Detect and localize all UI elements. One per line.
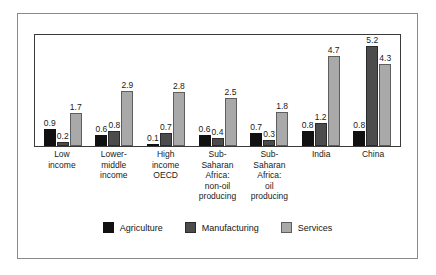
legend-swatch-services-icon [281, 222, 292, 233]
legend-label: Services [298, 223, 333, 233]
bar-groups: 0.90.21.70.60.82.90.10.72.80.60.42.50.70… [35, 35, 400, 146]
category-label-line: producing [192, 191, 244, 202]
category-label-line: Sub- [192, 149, 244, 160]
bar-group: 0.90.21.7 [37, 35, 89, 146]
bar-value-label: 0.2 [57, 132, 69, 141]
category-label-line: Lower- [88, 149, 140, 160]
bar-slot: 0.8 [302, 35, 314, 146]
bar-agriculture[interactable] [95, 135, 107, 146]
category-label-line: income [140, 160, 192, 171]
bar-services[interactable] [276, 112, 288, 146]
bar-agriculture[interactable] [44, 129, 56, 146]
bar-manufacturing[interactable] [108, 131, 120, 146]
bar-slot: 2.9 [121, 35, 133, 146]
bar-services[interactable] [173, 92, 185, 146]
bar-manufacturing[interactable] [212, 138, 224, 146]
bar-manufacturing[interactable] [315, 123, 327, 146]
legend-swatch-agriculture-icon [103, 222, 114, 233]
bar-slot: 0.1 [147, 35, 159, 146]
category-label-line: Africa: [243, 170, 295, 181]
category-label-line: Saharan [243, 160, 295, 171]
category-label: India [295, 149, 347, 202]
bar-value-label: 0.7 [250, 123, 262, 132]
bar-slot: 0.8 [353, 35, 365, 146]
category-label-line: producing [243, 191, 295, 202]
category-label-line: OECD [140, 170, 192, 181]
bar-group: 0.10.72.8 [140, 35, 192, 146]
bar-slot: 1.7 [70, 35, 82, 146]
bar-group: 0.60.42.5 [192, 35, 244, 146]
category-label: HighincomeOECD [140, 149, 192, 202]
chart-figure: 0.90.21.70.60.82.90.10.72.80.60.42.50.70… [17, 13, 418, 259]
bar-value-label: 1.2 [315, 113, 327, 122]
legend-label: Manufacturing [202, 223, 259, 233]
category-label-line: middle [88, 160, 140, 171]
plot-area: 0.90.21.70.60.82.90.10.72.80.60.42.50.70… [34, 34, 401, 147]
bar-manufacturing[interactable] [57, 142, 69, 146]
bar-slot: 1.2 [315, 35, 327, 146]
legend-label: Agriculture [120, 223, 163, 233]
bar-services[interactable] [70, 113, 82, 146]
bar-value-label: 0.8 [353, 121, 365, 130]
category-axis-labels: LowincomeLower-middleincomeHighincomeOEC… [34, 149, 401, 202]
bar-slot: 0.7 [160, 35, 172, 146]
bar-group: 0.85.24.3 [346, 35, 398, 146]
category-label-line: income [88, 170, 140, 181]
category-label-line: Africa: [192, 170, 244, 181]
bar-value-label: 0.6 [95, 125, 107, 134]
bar-value-label: 1.8 [276, 102, 288, 111]
bar-value-label: 0.3 [263, 130, 275, 139]
bar-services[interactable] [328, 56, 340, 146]
bar-slot: 4.3 [379, 35, 391, 146]
category-label: Sub-SaharanAfrica:oilproducing [243, 149, 295, 202]
bar-agriculture[interactable] [199, 135, 211, 146]
category-label-line: Saharan [192, 160, 244, 171]
category-label-line: Sub- [243, 149, 295, 160]
bar-slot: 0.7 [250, 35, 262, 146]
category-label-line: income [36, 160, 88, 171]
bar-manufacturing[interactable] [366, 46, 378, 146]
bar-value-label: 0.4 [212, 128, 224, 137]
bar-value-label: 5.2 [366, 36, 378, 45]
category-label-line: High [140, 149, 192, 160]
legend-item-services[interactable]: Services [281, 222, 333, 233]
bar-agriculture[interactable] [250, 133, 262, 146]
category-label: China [347, 149, 399, 202]
legend-item-manufacturing[interactable]: Manufacturing [185, 222, 259, 233]
category-label-line: India [295, 149, 347, 160]
bar-services[interactable] [121, 91, 133, 147]
bar-value-label: 0.8 [302, 121, 314, 130]
bar-value-label: 2.8 [173, 82, 185, 91]
bar-manufacturing[interactable] [160, 133, 172, 146]
bar-value-label: 0.8 [108, 121, 120, 130]
bar-agriculture[interactable] [353, 131, 365, 146]
bar-slot: 1.8 [276, 35, 288, 146]
bar-group: 0.81.24.7 [295, 35, 347, 146]
bar-value-label: 2.9 [121, 81, 133, 90]
bar-group: 0.60.82.9 [89, 35, 141, 146]
bar-slot: 5.2 [366, 35, 378, 146]
bar-slot: 2.8 [173, 35, 185, 146]
bar-services[interactable] [379, 64, 391, 146]
bar-value-label: 0.1 [147, 134, 159, 143]
bar-group: 0.70.31.8 [243, 35, 295, 146]
bar-slot: 0.6 [95, 35, 107, 146]
legend-item-agriculture[interactable]: Agriculture [103, 222, 163, 233]
bar-value-label: 0.9 [44, 119, 56, 128]
category-label: Sub-SaharanAfrica:non-oilproducing [192, 149, 244, 202]
bar-services[interactable] [225, 98, 237, 146]
bar-value-label: 1.7 [70, 103, 82, 112]
bar-manufacturing[interactable] [263, 140, 275, 146]
bar-slot: 0.2 [57, 35, 69, 146]
bar-slot: 0.8 [108, 35, 120, 146]
legend-swatch-manufacturing-icon [185, 222, 196, 233]
category-label-line: oil [243, 181, 295, 192]
bar-value-label: 4.7 [328, 46, 340, 55]
category-label-line: non-oil [192, 181, 244, 192]
bar-agriculture[interactable] [147, 144, 159, 146]
bar-slot: 0.9 [44, 35, 56, 146]
category-label: Lowincome [36, 149, 88, 202]
bar-agriculture[interactable] [302, 131, 314, 146]
bar-slot: 0.3 [263, 35, 275, 146]
bar-value-label: 0.7 [160, 123, 172, 132]
